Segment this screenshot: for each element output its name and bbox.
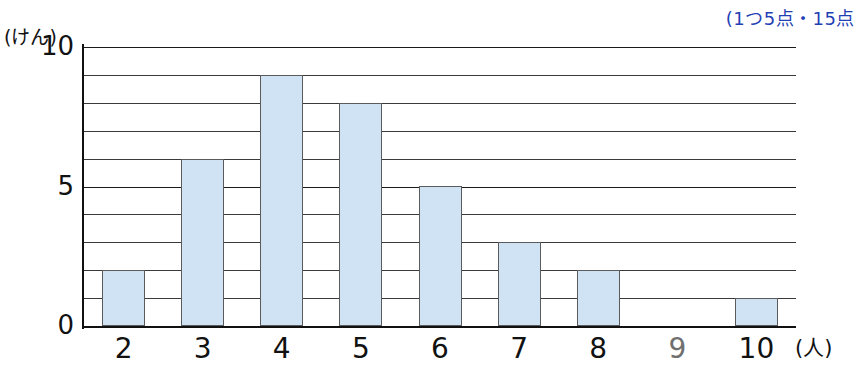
- x-tick-label: 4: [252, 332, 312, 365]
- y-tick-label: 0: [34, 310, 74, 340]
- y-tick: 0: [22, 310, 74, 340]
- y-tick: 10: [22, 31, 74, 61]
- y-tick: 5: [22, 171, 74, 201]
- bar: [498, 242, 541, 326]
- x-tick-label: 6: [410, 332, 470, 365]
- gridline: [84, 47, 796, 48]
- bar: [181, 159, 224, 326]
- bar: [419, 186, 462, 326]
- top-right-note: (1つ5点・15点: [726, 4, 855, 30]
- x-axis-line: [82, 326, 796, 328]
- bar: [735, 298, 778, 326]
- gridline: [84, 131, 796, 132]
- y-tick-label: 5: [34, 171, 74, 201]
- gridline: [84, 103, 796, 104]
- x-tick-label: 5: [331, 332, 391, 365]
- bar: [102, 270, 145, 326]
- plot-area: [84, 47, 796, 326]
- x-tick-label: 3: [173, 332, 233, 365]
- x-tick-label: 7: [489, 332, 549, 365]
- y-tick-label: 10: [34, 31, 74, 61]
- x-tick-label: 9: [647, 332, 707, 365]
- x-tick-label: 8: [568, 332, 628, 365]
- bar: [339, 103, 382, 326]
- gridline: [84, 75, 796, 76]
- bar: [577, 270, 620, 326]
- chart-page: (1つ5点・15点 (けん) (人) 0510 2345678910: [0, 0, 863, 377]
- x-axis-unit-label: (人): [795, 331, 832, 361]
- bar: [260, 75, 303, 326]
- x-tick-label: 2: [94, 332, 154, 365]
- x-tick-label: 10: [726, 332, 786, 365]
